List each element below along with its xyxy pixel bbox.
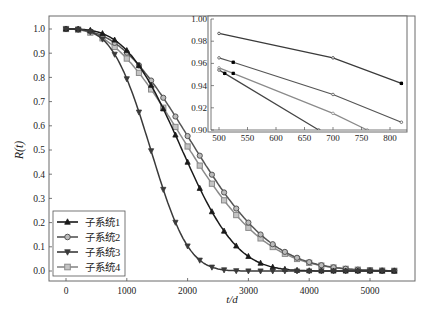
svg-text:0.1: 0.1 [33,242,45,252]
svg-text:0.90: 0.90 [191,125,207,135]
svg-text:3000: 3000 [239,286,258,296]
legend: 子系统1子系统2子系统3子系统4 [53,211,125,276]
svg-text:0.6: 0.6 [33,121,45,131]
y-axis-label: R(t) [12,141,26,161]
legend-label: 子系统2 [85,231,120,243]
svg-text:0: 0 [64,286,69,296]
svg-text:700: 700 [326,133,340,143]
legend-label: 子系统4 [85,261,121,273]
reliability-chart: 0100020003000400050000.00.10.20.30.40.50… [0,0,429,322]
svg-text:0.0: 0.0 [33,266,45,276]
svg-text:0.8: 0.8 [33,73,45,83]
svg-text:1000: 1000 [117,286,136,296]
x-axis-label: t/d [226,293,238,305]
svg-text:600: 600 [269,133,283,143]
svg-text:1.0: 1.0 [33,24,45,34]
svg-text:750: 750 [355,133,369,143]
svg-text:0.94: 0.94 [191,81,207,91]
svg-text:5000: 5000 [361,286,380,296]
svg-text:1.00: 1.00 [191,14,207,24]
svg-text:650: 650 [298,133,312,143]
svg-text:0.2: 0.2 [33,218,45,228]
svg-text:500: 500 [212,133,226,143]
svg-text:0.96: 0.96 [191,58,207,68]
svg-text:800: 800 [383,133,397,143]
svg-text:0.9: 0.9 [33,49,45,59]
svg-text:0.4: 0.4 [33,170,45,180]
svg-text:0.98: 0.98 [191,36,207,46]
svg-text:4000: 4000 [300,286,319,296]
svg-text:0.3: 0.3 [33,194,45,204]
svg-text:0.5: 0.5 [33,145,45,155]
legend-label: 子系统1 [85,216,120,228]
svg-text:2000: 2000 [178,286,197,296]
svg-text:550: 550 [241,133,255,143]
svg-text:0.92: 0.92 [191,103,207,113]
svg-text:0.7: 0.7 [33,97,45,107]
legend-label: 子系统3 [85,246,120,258]
